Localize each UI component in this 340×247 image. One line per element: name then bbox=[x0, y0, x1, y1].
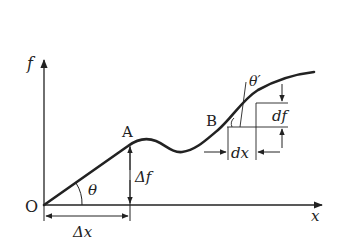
y-axis-label: f bbox=[26, 54, 36, 73]
origin-label: O bbox=[25, 197, 38, 216]
point-a-label: A bbox=[121, 123, 133, 141]
axes bbox=[44, 60, 322, 205]
theta-arc bbox=[76, 183, 82, 205]
function-curve bbox=[44, 72, 314, 205]
dx-label: dx bbox=[231, 144, 250, 162]
delta-x-label: Δx bbox=[72, 223, 93, 241]
x-axis-label: x bbox=[311, 207, 320, 225]
theta-label: θ bbox=[88, 181, 97, 199]
point-b-label: B bbox=[206, 112, 217, 130]
theta-prime-label: θ′ bbox=[249, 73, 261, 89]
df-label: df bbox=[272, 107, 290, 125]
diagram-canvas: f x O A B θ θ′ Δf Δx dx df bbox=[0, 0, 340, 247]
delta-f-label: Δf bbox=[134, 168, 154, 186]
